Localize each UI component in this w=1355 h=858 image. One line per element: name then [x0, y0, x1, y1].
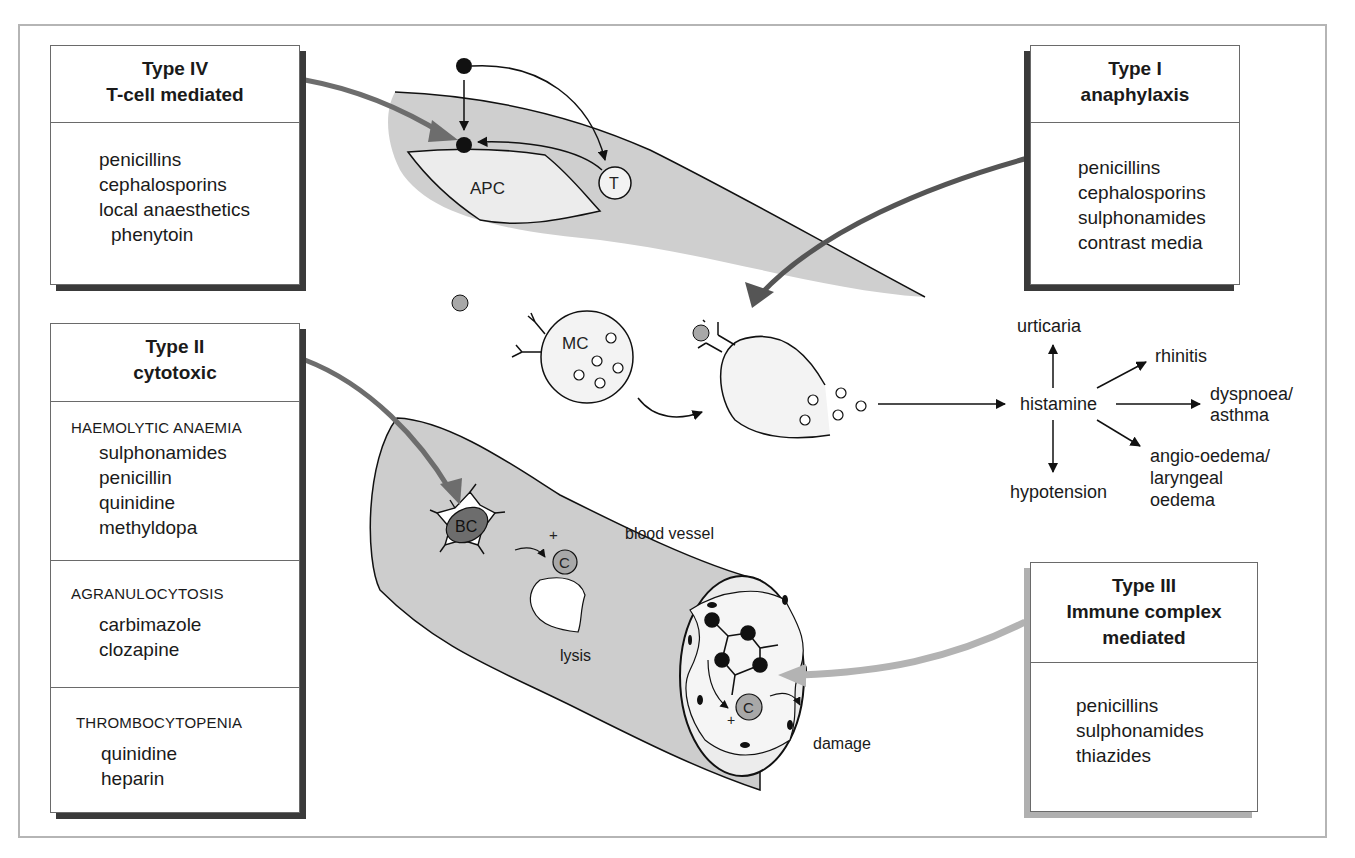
drug-item: cephalosporins [1031, 180, 1239, 205]
antigen-free [452, 295, 468, 311]
type-iii-drug-list: penicillins sulphonamides thiazides [1031, 663, 1257, 768]
drug-item: penicillin [51, 465, 299, 490]
svg-text:BC: BC [455, 518, 477, 535]
type-iii-title: Type III [1035, 573, 1253, 599]
type-ii-sections: HAEMOLYTIC ANAEMIA sulphonamides penicil… [51, 402, 299, 791]
svg-text:+: + [549, 526, 558, 543]
type-i-title: Type I [1035, 56, 1235, 82]
type-iii-arrow [800, 622, 1025, 675]
drug-item: penicillins [1031, 693, 1257, 718]
section-heading: HAEMOLYTIC ANAEMIA [51, 415, 299, 440]
drug-item: contrast media [1031, 230, 1239, 255]
label-lysis: lysis [560, 646, 591, 666]
mast-cell [541, 311, 633, 403]
type-ii-title: Type II [55, 334, 295, 360]
type-i-header: Type I anaphylaxis [1031, 46, 1239, 123]
type-iv-title: Type IV [55, 56, 295, 82]
drug-item: quinidine [51, 741, 299, 766]
section-haemolytic-anaemia: HAEMOLYTIC ANAEMIA sulphonamides penicil… [51, 402, 299, 561]
svg-text:T: T [609, 175, 619, 192]
drug-item: clozapine [51, 637, 299, 662]
type-iv-box: Type IV T-cell mediated penicillins ceph… [50, 45, 300, 285]
type-i-drug-list: penicillins cephalosporins sulphonamides… [1031, 123, 1239, 255]
section-thrombocytopenia: THROMBOCYTOPENIA quinidine heparin [51, 688, 299, 791]
label-oedema: oedema [1150, 490, 1215, 510]
drug-item: thiazides [1031, 743, 1257, 768]
type-iv-subtitle: T-cell mediated [55, 82, 295, 108]
drug-item: sulphonamides [1031, 205, 1239, 230]
type-i-subtitle: anaphylaxis [1035, 82, 1235, 108]
svg-text:C: C [743, 699, 754, 716]
section-agranulocytosis: AGRANULOCYTOSIS carbimazole clozapine [51, 561, 299, 688]
drug-item: penicillins [51, 147, 299, 172]
type-iv-drug-list: penicillins cephalosporins local anaesth… [51, 123, 299, 247]
drug-item: carbimazole [51, 612, 299, 637]
degranulating-mast-cell [721, 336, 830, 437]
type-ii-box: Type II cytotoxic HAEMOLYTIC ANAEMIA sul… [50, 323, 300, 813]
drug-item: cephalosporins [51, 172, 299, 197]
type-iii-subtitle: Immune complex [1035, 599, 1253, 625]
type-i-box: Type I anaphylaxis penicillins cephalosp… [1030, 45, 1240, 285]
antigen-dot [456, 58, 472, 74]
label-damage: damage [813, 734, 871, 754]
svg-text:C: C [559, 554, 570, 571]
drug-item: sulphonamides [51, 440, 299, 465]
label-histamine: histamine [1020, 394, 1097, 414]
label-rhinitis: rhinitis [1155, 346, 1207, 366]
type-iii-box: Type III Immune complex mediated penicil… [1030, 562, 1258, 812]
type-ii-subtitle: cytotoxic [55, 360, 295, 386]
label-hypotension: hypotension [1010, 482, 1107, 502]
label-asthma: asthma [1210, 405, 1269, 425]
type-ii-header: Type II cytotoxic [51, 324, 299, 402]
label-dyspnoea: dyspnoea/ [1210, 384, 1293, 404]
drug-item: penicillins [1031, 155, 1239, 180]
section-heading: AGRANULOCYTOSIS [51, 581, 299, 606]
antigen-bound-mc [693, 325, 709, 341]
svg-text:+: + [727, 712, 735, 728]
apc-label: APC [470, 179, 505, 198]
drug-item: quinidine [51, 490, 299, 515]
drug-item: heparin [51, 766, 299, 791]
label-blood-vessel: blood vessel [625, 524, 714, 544]
drug-item: methyldopa [51, 515, 299, 540]
label-urticaria: urticaria [1017, 316, 1081, 336]
drug-item: sulphonamides [1031, 718, 1257, 743]
type-iv-header: Type IV T-cell mediated [51, 46, 299, 123]
drug-item: phenytoin [51, 222, 299, 247]
section-heading: THROMBOCYTOPENIA [51, 710, 299, 735]
svg-text:MC: MC [562, 334, 588, 353]
drug-item: local anaesthetics [51, 197, 299, 222]
type-iii-header: Type III Immune complex mediated [1031, 563, 1257, 663]
label-angio-oedema: angio-oedema/ [1150, 446, 1270, 466]
type-iii-subtitle-2: mediated [1035, 625, 1253, 651]
antigen-dot-bound [456, 137, 472, 153]
label-laryngeal: laryngeal [1150, 468, 1223, 488]
